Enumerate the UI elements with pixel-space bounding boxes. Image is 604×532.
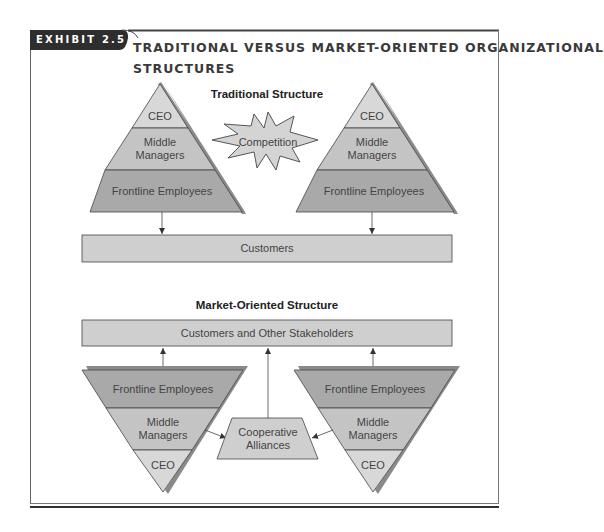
cooperative-alliances-box: Cooperative Alliances [217,418,318,459]
traditional-pyramid-left: CEO Middle Managers Frontline Employees [90,82,246,214]
customers-box: Customers [82,235,452,262]
exhibit-title-line1: TRADITIONAL VERSUS MARKET-ORIENTED ORGAN… [133,40,604,55]
market-pyramid-right: Frontline Employees Middle Managers CEO [294,366,460,494]
market-pyramid-left: Frontline Employees Middle Managers CEO [82,366,248,494]
exhibit-title-line2: STRUCTURES [133,61,235,76]
tier-label-ceo: CEO [361,459,385,471]
exhibit-label: EXHIBIT 2.5 [36,34,126,45]
competition-label: Competition [239,136,298,148]
competition-starburst: Competition [212,112,318,170]
customers-label: Customers [240,242,294,254]
tier-label-managers: Managers [349,429,398,441]
tier-label-managers: Managers [136,149,185,161]
tier-label-ceo: CEO [148,110,172,122]
market-oriented-heading: Market-Oriented Structure [196,299,339,311]
traditional-pyramid-right: CEO Middle Managers Frontline Employees [296,82,458,214]
arrow-right-to-alliances [312,430,333,438]
tier-label-managers: Managers [348,149,397,161]
arrow-left-to-alliances [205,430,226,438]
tier-label-middle: Middle [144,136,176,148]
tier-label-middle: Middle [356,136,388,148]
tier-label-frontline: Frontline Employees [113,383,214,395]
traditional-heading: Traditional Structure [211,88,323,100]
tier-label-ceo: CEO [151,459,175,471]
tier-label-frontline: Frontline Employees [324,185,425,197]
tier-label-frontline: Frontline Employees [325,383,426,395]
tier-label-ceo: CEO [360,110,384,122]
tier-label-frontline: Frontline Employees [112,185,213,197]
stakeholders-box: Customers and Other Stakeholders [82,320,452,346]
alliances-label-line2: Alliances [246,439,291,451]
tier-label-middle: Middle [357,416,389,428]
alliances-label-line1: Cooperative [238,426,297,438]
tier-label-managers: Managers [139,429,188,441]
tier-label-middle: Middle [147,416,179,428]
stakeholders-label: Customers and Other Stakeholders [181,327,354,339]
